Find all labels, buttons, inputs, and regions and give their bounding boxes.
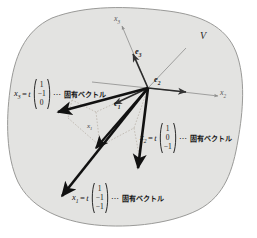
eq-x2-scalar: t [154, 133, 156, 143]
eq-x3-matrix: 1 −1 0 [32, 78, 52, 110]
basis-label-e1: e1 [114, 98, 121, 110]
eq-x2-dots: ⋯ [179, 134, 187, 143]
figure-canvas: V x3 x2 e3 e2 e1 x1 x3 = t 1 −1 0 [0, 0, 257, 238]
eq-x2-column: 1 0 −1 [163, 125, 173, 152]
basis-label-e2: e2 [154, 74, 161, 86]
eq-x3-column: 1 −1 0 [37, 81, 47, 108]
eigenvector-x3: x3 = t 1 −1 0 ⋯ 固有ベクトル [14, 78, 106, 110]
eigenvector-x1: x1 = t 1 −1 −1 ⋯ 固有ベクトル [72, 182, 164, 214]
eq-x1-scalar: t [86, 193, 88, 203]
eq-x3-lhs: x3 [14, 88, 21, 100]
eq-x2-note: 固有ベクトル [190, 133, 232, 143]
basis-label-e3: e3 [135, 46, 142, 58]
eq-x1-dots: ⋯ [111, 194, 119, 203]
eq-x1-lhs: x1 [72, 192, 79, 204]
eq-x3-note: 固有ベクトル [64, 89, 106, 99]
eq-x1-column: 1 −1 −1 [95, 185, 105, 212]
eq-x3-dots: ⋯ [53, 90, 61, 99]
eq-x1-matrix: 1 −1 −1 [90, 182, 110, 214]
inline-label-x1: x1 [87, 122, 92, 131]
eq-x2-equals: = [148, 133, 154, 143]
eq-x2-lhs: x2 [140, 132, 147, 144]
paren-close-icon [47, 78, 52, 110]
eq-x2-matrix: 1 0 −1 [158, 122, 178, 154]
eq-x3-equals: = [22, 89, 28, 99]
paren-close-icon [105, 182, 110, 214]
axis-label-x2: x2 [220, 88, 226, 99]
eq-x1-note: 固有ベクトル [122, 193, 164, 203]
space-label-V: V [200, 30, 206, 41]
eq-x3-scalar: t [28, 89, 30, 99]
eigenvector-x2: x2 = t 1 0 −1 ⋯ 固有ベクトル [140, 122, 232, 154]
axis-label-x3: x3 [114, 14, 120, 25]
paren-close-icon [173, 122, 178, 154]
eq-x1-equals: = [80, 193, 86, 203]
